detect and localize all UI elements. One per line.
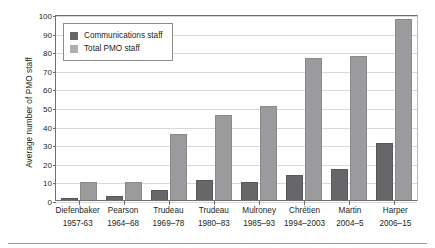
bar	[196, 180, 213, 201]
y-tick-label: 30	[43, 142, 52, 151]
x-axis-labels: Diefenbaker1957-63Pearson1964–68Trudeau1…	[55, 205, 418, 237]
y-tick-label: 40	[43, 123, 52, 132]
bar	[350, 56, 367, 201]
bar-group	[372, 16, 417, 201]
y-tick-label: 20	[43, 160, 52, 169]
bar-group	[282, 16, 327, 201]
bottom-divider	[8, 243, 427, 244]
x-label-name: Mulroney	[237, 205, 282, 218]
x-label-name: Martin	[327, 205, 372, 218]
bar	[170, 134, 187, 201]
y-axis-title: Average number of PMO staff	[25, 28, 34, 198]
chart-legend: Communications staff Total PMO staff	[63, 23, 173, 61]
x-label-name: Chrétien	[282, 205, 327, 218]
x-axis-label: Trudeau1969–78	[146, 205, 191, 237]
bar	[125, 182, 142, 201]
bar	[106, 196, 123, 201]
y-tick-label: 10	[43, 179, 52, 188]
bar	[241, 182, 258, 201]
x-label-name: Diefenbaker	[55, 205, 100, 218]
x-axis-label: Diefenbaker1957-63	[55, 205, 100, 237]
bar	[286, 175, 303, 201]
x-axis-label: Mulroney1985–93	[237, 205, 282, 237]
y-tick-label: 80	[43, 49, 52, 58]
x-label-years: 1969–78	[146, 218, 191, 231]
legend-swatch-total-pmo-staff	[70, 45, 78, 53]
y-tick-label: 100	[39, 12, 52, 21]
x-label-years: 1980–83	[191, 218, 236, 231]
y-tick-label: 70	[43, 67, 52, 76]
x-axis-label: Chrétien1994–2003	[282, 205, 327, 237]
x-label-name: Trudeau	[146, 205, 191, 218]
bar	[61, 198, 78, 201]
y-tick-label: 90	[43, 30, 52, 39]
bar	[151, 190, 168, 201]
x-label-name: Pearson	[100, 205, 145, 218]
bar	[80, 182, 97, 201]
legend-item: Total PMO staff	[70, 42, 163, 55]
bar-group	[237, 16, 282, 201]
y-tick-label: 50	[43, 105, 52, 114]
x-label-years: 1957-63	[55, 218, 100, 231]
bar	[395, 19, 412, 201]
bar-group	[191, 16, 236, 201]
legend-item: Communications staff	[70, 29, 163, 42]
x-label-years: 2006–15	[373, 218, 418, 231]
x-axis-label: Pearson1964–68	[100, 205, 145, 237]
x-label-years: 1985–93	[237, 218, 282, 231]
chart-figure: Average number of PMO staff 010203040506…	[0, 0, 435, 248]
bar	[260, 106, 277, 201]
x-label-years: 1964–68	[100, 218, 145, 231]
legend-label: Communications staff	[84, 31, 163, 40]
y-tick-label: 60	[43, 86, 52, 95]
bar-group	[327, 16, 372, 201]
x-label-name: Trudeau	[191, 205, 236, 218]
x-axis-label: Harper2006–15	[373, 205, 418, 237]
y-tick-mark	[53, 202, 56, 203]
legend-swatch-communications-staff	[70, 32, 78, 40]
bar	[215, 115, 232, 201]
gridline	[56, 202, 417, 203]
bar	[331, 169, 348, 201]
x-label-years: 2004–5	[327, 218, 372, 231]
y-tick-label: 0	[48, 198, 52, 207]
x-label-years: 1994–2003	[282, 218, 327, 231]
legend-label: Total PMO staff	[84, 44, 140, 53]
bar	[305, 58, 322, 201]
x-axis-label: Martin2004–5	[327, 205, 372, 237]
x-label-name: Harper	[373, 205, 418, 218]
bar	[376, 143, 393, 201]
x-axis-label: Trudeau1980–83	[191, 205, 236, 237]
